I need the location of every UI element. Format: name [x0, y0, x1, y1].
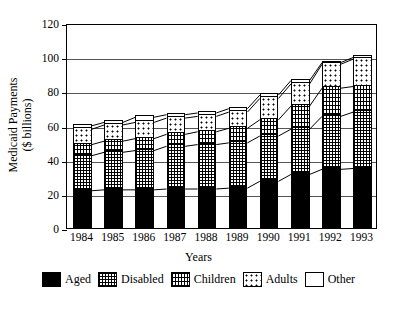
bar-1989: [229, 107, 248, 228]
bar-segment-disabled: [104, 150, 123, 188]
x-tick-label-1987: 1987: [163, 232, 186, 244]
bar-1993: [353, 55, 372, 228]
bar-segment-aged: [229, 186, 248, 228]
bar-segment-disabled: [198, 143, 217, 187]
plot-area: 020406080100120: [66, 24, 377, 229]
bar-segment-aged: [260, 179, 279, 228]
bar-segment-aged: [353, 167, 372, 229]
y-tick-label: 120: [42, 19, 59, 31]
bar-1990: [260, 93, 279, 228]
stacked-bars: [67, 25, 376, 228]
bar-segment-adults: [291, 82, 310, 104]
legend-item-children: Children: [171, 272, 236, 287]
bar-segment-other: [135, 115, 154, 120]
y-tick-label: 100: [42, 53, 59, 65]
x-tick-label-1993: 1993: [350, 232, 373, 244]
bar-segment-other: [229, 107, 248, 110]
bar-segment-adults: [135, 120, 154, 136]
bar-1992: [322, 61, 341, 228]
x-axis-title: Years: [0, 250, 397, 265]
bar-segment-aged: [135, 188, 154, 228]
bar-segment-children: [135, 137, 154, 149]
x-tick-label-1984: 1984: [70, 232, 93, 244]
bar-segment-children: [353, 85, 372, 111]
bar-segment-adults: [73, 127, 92, 142]
chart-legend: AgedDisabledChildrenAdultsOther: [0, 272, 397, 287]
y-tick-label: 20: [48, 190, 60, 202]
x-tick-label-1991: 1991: [288, 232, 311, 244]
bar-segment-children: [167, 132, 186, 144]
bar-1986: [135, 115, 154, 228]
legend-label: Children: [194, 272, 236, 287]
bar-segment-other: [73, 124, 92, 127]
bar-segment-other: [198, 111, 217, 114]
swatch-disabled-icon: [98, 272, 117, 287]
x-tick-label-1986: 1986: [132, 232, 155, 244]
bar-segment-disabled: [229, 141, 248, 186]
legend-label: Adults: [266, 272, 298, 287]
bar-segment-children: [260, 118, 279, 134]
bar-segment-children: [104, 139, 123, 150]
bar-segment-aged: [198, 187, 217, 228]
bar-segment-adults: [260, 96, 279, 117]
y-axis-title: Medicaid Payments ($ billions): [8, 40, 32, 210]
bar-segment-disabled: [322, 114, 341, 167]
bar-segment-adults: [104, 123, 123, 139]
bar-segment-adults: [322, 62, 341, 86]
bar-segment-aged: [167, 187, 186, 228]
bar-segment-aged: [322, 167, 341, 228]
bar-segment-disabled: [353, 110, 372, 166]
bar-segment-adults: [167, 116, 186, 132]
y-axis-title-line1: Medicaid Payments: [6, 78, 20, 173]
y-tick-mark: [62, 230, 67, 231]
bar-segment-children: [73, 143, 92, 154]
bar-segment-disabled: [73, 154, 92, 189]
y-tick-label: 80: [48, 88, 60, 100]
x-tick-label-1992: 1992: [319, 232, 342, 244]
bar-segment-aged: [73, 189, 92, 228]
swatch-other-icon: [305, 272, 324, 287]
legend-item-other: Other: [305, 272, 355, 287]
legend-item-adults: Adults: [243, 272, 298, 287]
swatch-aged-icon: [42, 272, 61, 287]
legend-item-aged: Aged: [42, 272, 91, 287]
bar-1984: [73, 124, 92, 228]
x-tick-label-1989: 1989: [226, 232, 249, 244]
y-tick-label: 60: [48, 122, 60, 134]
bar-segment-disabled: [291, 127, 310, 172]
y-axis-title-line2: ($ billions): [20, 99, 34, 152]
x-tick-label-1988: 1988: [194, 232, 217, 244]
bar-segment-disabled: [135, 149, 154, 188]
bar-segment-aged: [291, 172, 310, 228]
x-tick-label-1985: 1985: [101, 232, 124, 244]
bar-segment-other: [104, 120, 123, 123]
legend-label: Aged: [65, 272, 91, 287]
legend-label: Disabled: [121, 272, 164, 287]
bar-segment-children: [198, 130, 217, 143]
bar-segment-disabled: [260, 134, 279, 179]
bar-1991: [291, 79, 310, 228]
bar-segment-other: [167, 113, 186, 116]
chart-root: Medicaid Payments ($ billions) 020406080…: [0, 0, 397, 312]
bar-segment-adults: [229, 110, 248, 126]
legend-label: Other: [328, 272, 355, 287]
bar-1987: [167, 113, 186, 228]
swatch-children-icon: [171, 272, 190, 287]
x-tick-label-1990: 1990: [257, 232, 280, 244]
y-tick-label: 0: [53, 224, 59, 236]
bar-1988: [198, 111, 217, 228]
y-tick-label: 40: [48, 156, 60, 168]
bar-segment-other: [291, 79, 310, 82]
bar-1985: [104, 120, 123, 228]
bar-segment-other: [353, 55, 372, 57]
bar-segment-children: [229, 126, 248, 141]
bar-segment-children: [291, 104, 310, 127]
legend-item-disabled: Disabled: [98, 272, 164, 287]
bar-segment-other: [260, 93, 279, 96]
bar-segment-adults: [198, 114, 217, 129]
bar-segment-adults: [353, 57, 372, 84]
bar-segment-disabled: [167, 144, 186, 187]
bar-segment-aged: [104, 188, 123, 228]
bar-segment-other: [322, 61, 341, 63]
swatch-adults-icon: [243, 272, 262, 287]
